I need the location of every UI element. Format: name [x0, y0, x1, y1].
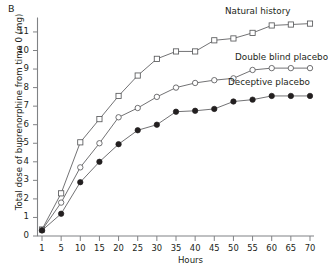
data-point [97, 117, 102, 122]
y-tick-label: 10 [7, 45, 29, 55]
y-tick-label: 1 [7, 211, 29, 221]
data-point [39, 228, 44, 233]
data-point [231, 99, 236, 104]
y-tick-label: 5 [7, 137, 29, 147]
data-point [116, 115, 121, 120]
data-point [192, 80, 197, 85]
data-point [212, 38, 217, 43]
data-point [250, 30, 255, 35]
y-tick-label: 0 [7, 230, 29, 240]
data-point [116, 93, 121, 98]
data-point [58, 200, 63, 205]
series-double-blind-placebo [39, 65, 312, 232]
data-point [58, 211, 63, 216]
y-tick-label: 8 [7, 82, 29, 92]
data-point [173, 109, 178, 114]
data-point [288, 93, 293, 98]
data-point [78, 180, 83, 185]
data-point [173, 85, 178, 90]
data-point [288, 65, 293, 70]
data-point [269, 23, 274, 28]
data-point [154, 56, 159, 61]
series-line [42, 68, 310, 230]
data-point [250, 97, 255, 102]
y-tick-label: 3 [7, 174, 29, 184]
data-point [173, 49, 178, 54]
data-point [212, 106, 217, 111]
series-label-natural-history: Natural history [225, 6, 291, 16]
data-point [288, 22, 293, 27]
data-point [135, 128, 140, 133]
y-tick-label: 7 [7, 100, 29, 110]
series-line [42, 96, 310, 230]
y-tick-label: 4 [7, 156, 29, 166]
data-point [135, 105, 140, 110]
y-tick-label: 6 [7, 119, 29, 129]
data-point [97, 159, 102, 164]
series-label-double-blind-placebo: Double blind placebo [235, 52, 328, 62]
series-label-deceptive-placebo: Deceptive placebo [228, 77, 310, 87]
y-tick-label: 9 [7, 63, 29, 73]
data-point [78, 165, 83, 170]
data-point [212, 77, 217, 82]
data-point [250, 67, 255, 72]
data-point [269, 93, 274, 98]
data-point [307, 21, 312, 26]
data-point [307, 93, 312, 98]
data-point [135, 73, 140, 78]
series-deceptive-placebo [39, 93, 312, 233]
data-point [193, 49, 198, 54]
data-point [78, 140, 83, 145]
y-tick-label: 11 [7, 26, 29, 36]
data-point [307, 65, 312, 70]
data-point [269, 65, 274, 70]
data-point [59, 191, 64, 196]
data-point [231, 36, 236, 41]
y-tick-label: 2 [7, 193, 29, 203]
data-point [97, 141, 102, 146]
x-tick-label: 70 [298, 243, 322, 253]
data-point [154, 122, 159, 127]
data-point [116, 141, 121, 146]
data-point [192, 108, 197, 113]
data-point [154, 94, 159, 99]
